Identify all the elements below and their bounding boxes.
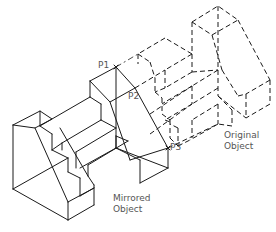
label-original-line1: Original (224, 130, 259, 140)
label-p1: P1 (98, 60, 109, 70)
original-object (138, 6, 270, 146)
mirror-diagram: P1 P2 P3 Original Object Mirrored Object (0, 0, 276, 232)
label-original-line2: Object (224, 141, 254, 151)
label-p2: P2 (128, 91, 139, 101)
label-mirrored-line2: Object (113, 204, 143, 214)
label-p3: P3 (170, 142, 181, 152)
mirror-construction-lines (116, 54, 218, 148)
label-mirrored-line1: Mirrored (113, 193, 151, 203)
